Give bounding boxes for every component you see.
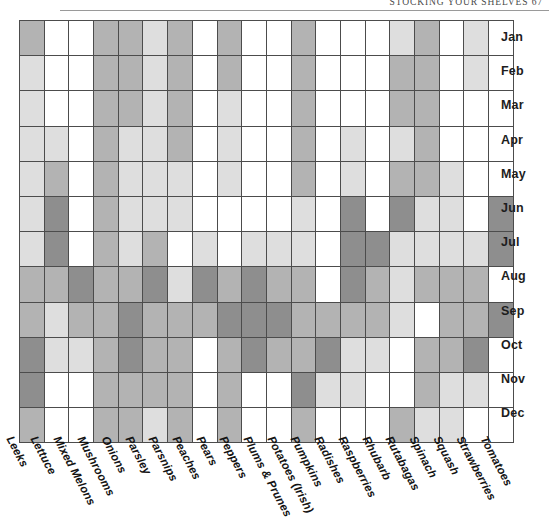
availability-cell [69, 161, 94, 196]
availability-cell [69, 126, 94, 161]
availability-cell [242, 21, 267, 56]
availability-cell [464, 372, 489, 407]
availability-cell [316, 372, 341, 407]
availability-cell [94, 161, 119, 196]
availability-cell [439, 126, 464, 161]
availability-cell [143, 337, 168, 372]
availability-cell [94, 196, 119, 231]
availability-cell [291, 196, 316, 231]
availability-cell [439, 302, 464, 337]
availability-row [20, 372, 514, 407]
availability-cell [217, 196, 242, 231]
availability-cell [217, 126, 242, 161]
availability-cell [316, 302, 341, 337]
availability-cell [390, 232, 415, 267]
availability-cell [168, 196, 193, 231]
month-label-sep: Sep [501, 294, 526, 328]
availability-cell [118, 302, 143, 337]
availability-cell [439, 56, 464, 91]
availability-cell [20, 56, 45, 91]
availability-cell [415, 337, 440, 372]
month-axis-labels: JanFebMarAprMayJunJulAugSepOctNovDec [501, 20, 526, 430]
availability-cell [316, 232, 341, 267]
availability-cell [291, 302, 316, 337]
availability-cell [390, 21, 415, 56]
availability-cell [415, 372, 440, 407]
seasonal-availability-chart [19, 20, 514, 443]
availability-cell [20, 267, 45, 302]
availability-cell [143, 56, 168, 91]
availability-cell [118, 372, 143, 407]
availability-cell [168, 126, 193, 161]
availability-cell [242, 126, 267, 161]
availability-cell [118, 232, 143, 267]
availability-row [20, 302, 514, 337]
availability-cell [20, 161, 45, 196]
availability-cell [340, 232, 365, 267]
availability-cell [365, 56, 390, 91]
availability-cell [316, 337, 341, 372]
availability-cell [390, 196, 415, 231]
availability-cell [69, 21, 94, 56]
availability-cell [266, 126, 291, 161]
availability-cell [266, 21, 291, 56]
availability-cell [242, 337, 267, 372]
availability-cell [291, 267, 316, 302]
produce-label: Pears [194, 434, 220, 468]
availability-cell [365, 372, 390, 407]
availability-cell [69, 372, 94, 407]
availability-cell [291, 91, 316, 126]
availability-cell [69, 337, 94, 372]
availability-cell [143, 372, 168, 407]
availability-cell [20, 337, 45, 372]
availability-cell [365, 161, 390, 196]
availability-cell [192, 56, 217, 91]
availability-cell [340, 91, 365, 126]
availability-cell [242, 196, 267, 231]
availability-cell [340, 302, 365, 337]
availability-cell [143, 91, 168, 126]
availability-cell [168, 302, 193, 337]
month-label-jan: Jan [501, 20, 526, 54]
month-label-jun: Jun [501, 191, 526, 225]
month-label-apr: Apr [501, 123, 526, 157]
availability-cell [217, 267, 242, 302]
availability-grid-body [20, 21, 514, 443]
availability-cell [118, 161, 143, 196]
month-label-nov: Nov [501, 362, 526, 396]
availability-cell [291, 232, 316, 267]
availability-cell [69, 232, 94, 267]
availability-cell [365, 21, 390, 56]
availability-cell [415, 267, 440, 302]
availability-cell [464, 161, 489, 196]
availability-cell [439, 91, 464, 126]
month-label-may: May [501, 157, 526, 191]
availability-cell [242, 372, 267, 407]
availability-cell [143, 232, 168, 267]
availability-row [20, 161, 514, 196]
availability-cell [168, 91, 193, 126]
availability-cell [242, 267, 267, 302]
availability-row [20, 91, 514, 126]
availability-cell [390, 126, 415, 161]
availability-cell [44, 91, 69, 126]
availability-cell [118, 21, 143, 56]
availability-cell [464, 56, 489, 91]
availability-cell [316, 196, 341, 231]
availability-cell [365, 91, 390, 126]
availability-cell [168, 21, 193, 56]
availability-cell [415, 196, 440, 231]
availability-cell [20, 232, 45, 267]
month-label-oct: Oct [501, 328, 526, 362]
availability-row [20, 337, 514, 372]
availability-cell [168, 56, 193, 91]
running-head-title: Stocking Your Shelves [390, 0, 529, 7]
availability-cell [365, 302, 390, 337]
availability-cell [266, 372, 291, 407]
availability-cell [291, 337, 316, 372]
availability-cell [464, 302, 489, 337]
availability-cell [439, 372, 464, 407]
availability-row [20, 126, 514, 161]
month-label-aug: Aug [501, 259, 526, 293]
availability-cell [464, 232, 489, 267]
